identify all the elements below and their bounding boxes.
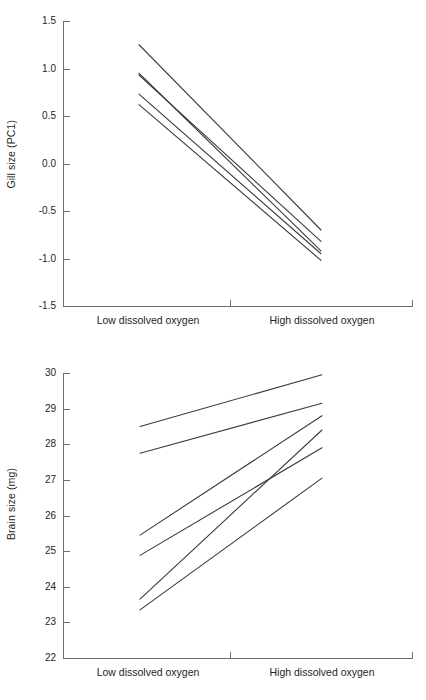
- y-tick-label: 29: [20, 404, 56, 414]
- y-tick-label: 28: [20, 439, 56, 449]
- y-tick-label: 22: [20, 653, 56, 663]
- y-tick-label: -1.5: [20, 301, 56, 311]
- x-category-label-high-gill: High dissolved oxygen: [240, 315, 404, 326]
- data-lines-gill: [139, 45, 321, 261]
- plot-area-brain: [0, 350, 426, 700]
- data-line-line-1: [139, 45, 321, 230]
- y-tick-label: 24: [20, 582, 56, 592]
- x-tick-marks-gill: [231, 300, 413, 307]
- y-tick-label: 23: [20, 617, 56, 627]
- y-tick-label: 0.5: [20, 111, 56, 121]
- data-line-line-6: [140, 478, 322, 610]
- data-line-line-3: [139, 75, 321, 241]
- data-line-line-4: [140, 448, 322, 556]
- y-tick-label: 25: [20, 546, 56, 556]
- y-tick-label: 1.0: [20, 64, 56, 74]
- x-category-label-low-brain: Low dissolved oxygen: [66, 667, 230, 678]
- x-category-label-low-gill: Low dissolved oxygen: [66, 315, 230, 326]
- chart-panel-gill: Gill size (PC1) 1.51.00.50.0-0.5-1.0-1.5…: [0, 0, 426, 350]
- plot-area-gill: [0, 0, 426, 350]
- y-tick-marks-brain: [64, 374, 70, 659]
- axes-brain: [64, 373, 413, 659]
- data-line-line-1: [140, 375, 322, 427]
- chart-panel-brain: Brain size (mg) 302928272625242322 Low d…: [0, 350, 426, 700]
- y-tick-label: 26: [20, 511, 56, 521]
- data-lines-brain: [140, 375, 322, 610]
- data-line-line-5: [139, 105, 321, 261]
- y-tick-label: 1.5: [20, 16, 56, 26]
- x-tick-marks-brain: [231, 652, 413, 659]
- y-tick-label: -0.5: [20, 206, 56, 216]
- y-tick-label: 30: [20, 368, 56, 378]
- data-line-line-4: [139, 94, 321, 254]
- y-tick-label: 27: [20, 475, 56, 485]
- y-tick-marks-gill: [64, 22, 70, 307]
- y-tick-label: 0.0: [20, 159, 56, 169]
- figure-container: Gill size (PC1) 1.51.00.50.0-0.5-1.0-1.5…: [0, 0, 426, 700]
- data-line-line-3: [140, 416, 322, 535]
- x-category-label-high-brain: High dissolved oxygen: [240, 667, 404, 678]
- axes-gill: [64, 21, 413, 307]
- data-line-line-2: [140, 403, 322, 453]
- y-tick-label: -1.0: [20, 254, 56, 264]
- data-line-line-5: [140, 430, 322, 599]
